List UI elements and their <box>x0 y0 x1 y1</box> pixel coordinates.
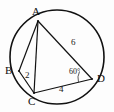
geometry-canvas <box>0 0 114 112</box>
length-label-cd: 4 <box>59 85 64 94</box>
vertex-dot-b <box>18 70 20 72</box>
vertex-dot-a <box>37 20 39 22</box>
vertex-label-d: D <box>97 73 105 84</box>
length-label-ad: 6 <box>71 38 76 47</box>
vertex-label-a: A <box>32 6 40 17</box>
segment-ac <box>34 21 38 93</box>
vertex-label-c: C <box>28 96 35 107</box>
angle-label-d: 60° <box>69 68 80 76</box>
length-label-bc: 2 <box>25 71 30 80</box>
vertex-dot-d <box>91 78 93 80</box>
vertex-label-b: B <box>5 65 12 76</box>
geometry-diagram: A B C D 6 2 4 60° <box>0 0 114 112</box>
segment-ad <box>38 21 92 79</box>
vertex-dot-c <box>33 92 35 94</box>
